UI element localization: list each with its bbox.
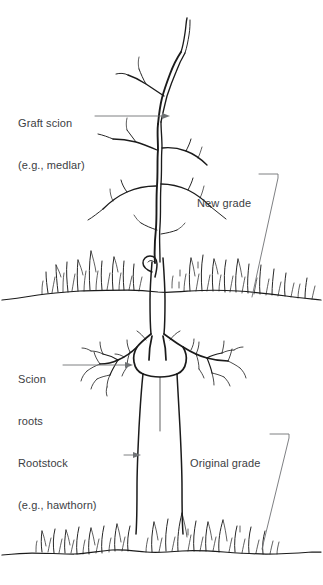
label-graft-scion-line2: (e.g., medlar): [18, 158, 85, 172]
rootstock-trunk: [136, 374, 183, 534]
buried-trunk: [150, 258, 165, 334]
label-rootstock-line1: Rootstock: [18, 456, 97, 470]
graft-diagram: Graft scion (e.g., medlar) New grade Sci…: [0, 0, 323, 585]
original-grade-soil-line: [2, 550, 321, 555]
label-new-grade: New grade: [197, 168, 251, 238]
scion-roots: [81, 331, 246, 396]
new-grade-soil-line: [2, 290, 321, 300]
label-graft-scion-line1: Graft scion: [18, 116, 85, 130]
label-scion-roots-line2: roots: [18, 414, 46, 428]
leader-new-grade: [252, 174, 278, 297]
label-scion-roots-line1: Scion: [18, 372, 46, 386]
leader-scion-roots: [63, 362, 133, 368]
label-original-grade: Original grade: [190, 428, 261, 498]
label-rootstock-line2: (e.g., hawthorn): [18, 498, 97, 512]
label-graft-scion: Graft scion (e.g., medlar): [18, 88, 85, 200]
label-original-grade-line1: Original grade: [190, 456, 261, 470]
leader-original-grade: [262, 434, 289, 549]
label-new-grade-line1: New grade: [197, 196, 251, 210]
label-rootstock: Rootstock (e.g., hawthorn): [18, 428, 97, 540]
